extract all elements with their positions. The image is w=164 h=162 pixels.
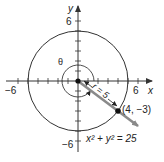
x-axis-label: x (147, 85, 154, 96)
x-max-label: 6 (133, 85, 139, 96)
y-max-label: 6 (66, 16, 72, 27)
point-label: (4, −3) (122, 104, 151, 115)
angle-label: θ (58, 57, 63, 67)
point-4-neg3 (115, 108, 121, 114)
y-axis-label: y (67, 3, 74, 14)
x-min-label: −6 (5, 85, 17, 96)
y-min-label: −6 (62, 139, 74, 150)
circle-equation-label: x² + y² = 25 (85, 133, 137, 144)
polar-diagram: y 6 −6 −6 6 x θ r = 5 (4, −3) x² + y² = … (0, 0, 164, 162)
origin-point (75, 78, 80, 83)
